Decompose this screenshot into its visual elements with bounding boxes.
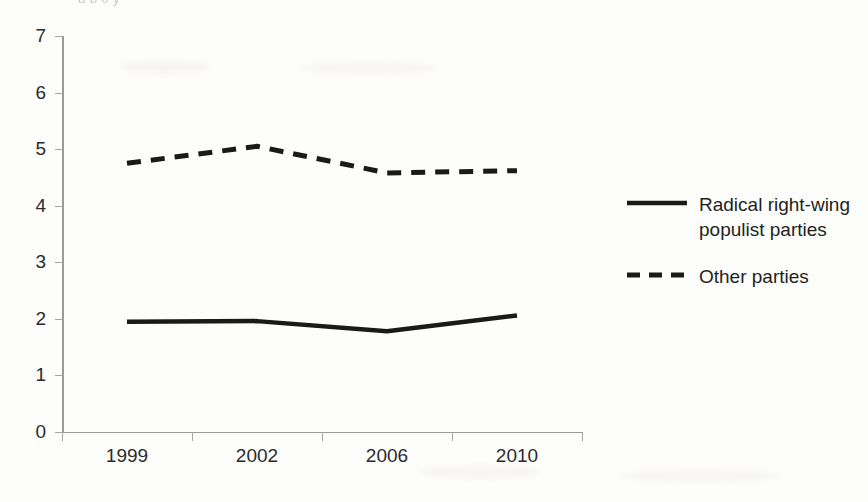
x-axis-tick-label: 2002: [236, 445, 278, 467]
x-axis-tick-label: 1999: [106, 445, 148, 467]
y-axis-tick-label: 1: [0, 364, 46, 386]
legend-label-line2: populist parties: [699, 219, 827, 240]
y-axis-tick-label: 2: [0, 308, 46, 330]
y-axis-tick: [55, 93, 63, 94]
y-axis-tick-label: 5: [0, 138, 46, 160]
y-axis-tick-label: 7: [0, 25, 46, 47]
x-axis-tick-label: 2006: [366, 445, 408, 467]
y-axis-tick-label: 0: [0, 421, 46, 443]
legend-label-line1: Other parties: [699, 266, 809, 287]
x-axis-tick: [452, 432, 453, 441]
y-axis-tick-label: 6: [0, 82, 46, 104]
y-axis-tick: [55, 36, 63, 37]
legend-label-other: Other parties: [699, 264, 809, 289]
legend-item-radical-right-wing-populist-parties[interactable]: Radical right-wing populist parties: [626, 192, 864, 242]
x-axis-tick: [582, 432, 583, 441]
y-axis-tick: [55, 262, 63, 263]
series-line-other-parties: [127, 146, 517, 173]
legend-label-radical: Radical right-wing populist parties: [699, 192, 850, 242]
x-axis-tick: [322, 432, 323, 441]
x-axis-tick: [192, 432, 193, 441]
y-axis-tick: [55, 319, 63, 320]
x-axis-tick-label: 2010: [496, 445, 538, 467]
chart-legend: Radical right-wing populist parties Othe…: [626, 192, 864, 311]
y-axis-tick: [55, 375, 63, 376]
y-axis-tick: [55, 206, 63, 207]
line-chart: 76543210 1999200220062010 Radical right-…: [0, 0, 868, 502]
series-line-radical-right-wing-populist-parties: [127, 315, 517, 331]
x-axis-tick: [62, 432, 63, 441]
legend-label-line1: Radical right-wing: [699, 194, 850, 215]
legend-swatch-dashed-line-icon: [626, 264, 688, 286]
y-axis-tick-label: 3: [0, 251, 46, 273]
y-axis-tick: [55, 149, 63, 150]
legend-item-other-parties[interactable]: Other parties: [626, 264, 864, 289]
y-axis-tick-label: 4: [0, 195, 46, 217]
legend-swatch-solid-line-icon: [626, 192, 688, 214]
y-axis-line: [62, 36, 64, 433]
